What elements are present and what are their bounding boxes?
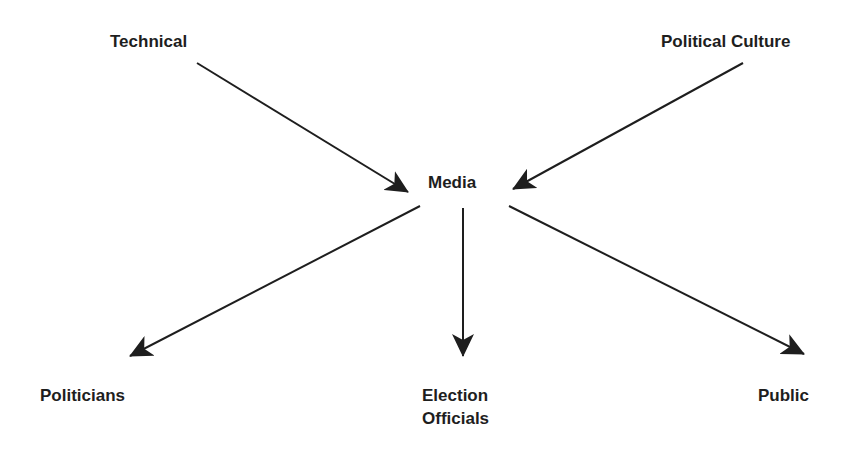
edge-technical-to-media	[197, 63, 408, 192]
node-election-officials-line2: Officials	[422, 407, 489, 430]
node-public: Public	[758, 384, 809, 407]
edge-media-to-public	[509, 206, 804, 354]
node-media: Media	[428, 171, 476, 194]
node-politicians: Politicians	[40, 384, 125, 407]
edge-political-culture-to-media	[513, 63, 743, 189]
node-political-culture: Political Culture	[661, 30, 790, 53]
edge-media-to-politicians	[130, 206, 420, 356]
node-technical: Technical	[110, 30, 187, 53]
node-election-officials: Election Officials	[422, 384, 489, 430]
node-election-officials-line1: Election	[422, 384, 489, 407]
edges-layer	[0, 0, 863, 450]
